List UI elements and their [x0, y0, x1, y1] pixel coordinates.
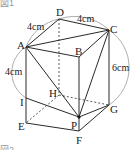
label-a: A — [17, 39, 25, 51]
dimension-cg: 6cm — [112, 62, 129, 73]
label-b: B — [75, 45, 82, 57]
dimension-ai: 4cm — [5, 66, 22, 77]
label-c: C — [110, 23, 117, 35]
dimension-dc: 4cm — [77, 13, 94, 24]
figure-caption-bottom: 図2 — [0, 145, 14, 150]
label-p: P — [71, 119, 77, 131]
label-h: H — [49, 87, 57, 99]
edge-ap — [26, 47, 79, 117]
edge-ab — [26, 47, 79, 57]
point-p-marker — [77, 115, 80, 118]
edge-he — [26, 95, 59, 123]
label-f: F — [76, 134, 82, 146]
dimension-ad: 4cm — [27, 21, 44, 32]
edge-ac — [26, 30, 109, 47]
label-g: G — [110, 103, 118, 115]
prism-diagram: 図1 D C A B H I G E P F 4cm 4cm 4cm 6cm 図… — [0, 0, 137, 150]
label-e: E — [18, 120, 25, 132]
edge-pg — [79, 105, 109, 117]
label-d: D — [56, 6, 64, 18]
edge-fg — [79, 105, 109, 131]
label-i: I — [20, 96, 24, 108]
figure-caption-top: 図1 — [0, 0, 14, 8]
